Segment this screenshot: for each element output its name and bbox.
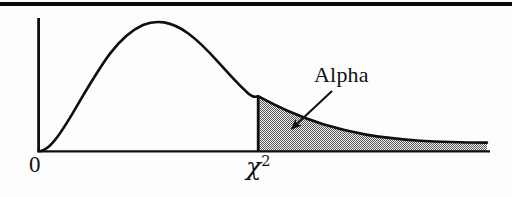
x-axis-origin-label: 0 — [29, 153, 41, 176]
chi-exponent: 2 — [261, 153, 270, 169]
alpha-annotation-label: Alpha — [314, 64, 369, 86]
x-axis-critical-value-label: χ2 — [246, 154, 270, 179]
chi-square-figure: 0 χ2 Alpha — [0, 0, 512, 197]
chi-glyph: χ — [246, 152, 261, 181]
